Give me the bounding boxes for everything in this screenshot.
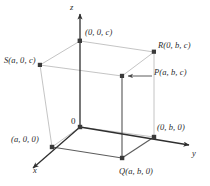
point-p-label: P(a, b, c) <box>154 68 187 77</box>
dot-0-b-0 <box>152 135 156 139</box>
axis-lines <box>33 14 189 168</box>
point-0-0-c-label: (0, 0, c) <box>85 28 112 37</box>
coordinate-box-figure: z y x 0 (0, 0, c) R(0, b, c) S(a, 0, c) … <box>0 0 210 186</box>
dot-p <box>120 74 124 78</box>
hidden-edges <box>40 41 154 147</box>
dot-q <box>120 156 124 160</box>
point-a-0-0-label: (a, 0, 0) <box>11 135 39 144</box>
point-0-b-0-label: (0, b, 0) <box>157 123 185 132</box>
solid-edges <box>52 76 154 158</box>
point-q-label: Q(a, b, 0) <box>119 167 153 176</box>
vertex-dots <box>38 39 156 161</box>
point-r-label: R(0, b, c) <box>158 41 191 50</box>
dot-0-0-c <box>78 39 82 43</box>
dot-r <box>152 50 156 54</box>
point-s-label: S(a, 0, c) <box>4 56 36 65</box>
axis-z-label: z <box>70 3 73 12</box>
dot-origin <box>78 125 82 129</box>
axis-x-label: x <box>33 166 37 175</box>
origin-label: 0 <box>71 117 76 126</box>
axis-y-label: y <box>192 149 196 158</box>
dot-s <box>38 63 42 67</box>
axis-x-line <box>33 127 80 168</box>
dot-a-0-0 <box>50 145 54 149</box>
